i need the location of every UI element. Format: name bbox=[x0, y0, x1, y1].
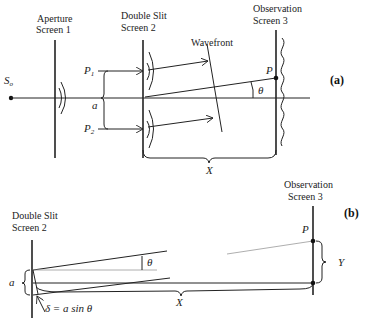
distance-x-label: X bbox=[205, 164, 214, 176]
slit-separation-brace bbox=[101, 71, 108, 129]
double-slit-diagram: Aperture Screen 1 Double Slit Screen 2 O… bbox=[0, 0, 365, 326]
height-y-brace bbox=[316, 241, 326, 283]
panel-label-b: (b) bbox=[344, 206, 359, 220]
wavefront-label: Wavefront bbox=[191, 37, 233, 48]
aperture-screen-label-line1: Aperture bbox=[37, 13, 73, 24]
interference-pattern bbox=[281, 38, 284, 146]
p1-label: P1 bbox=[83, 64, 94, 78]
aperture-screen-label-line2: Screen 1 bbox=[36, 24, 71, 35]
angle-arc bbox=[251, 82, 253, 98]
observation-screen-label-line1: Observation bbox=[253, 3, 302, 14]
path-difference-label: δ = a sin θ bbox=[45, 302, 93, 314]
point-p-label: P bbox=[265, 64, 273, 76]
height-y-label: Y bbox=[338, 256, 346, 268]
angle-label: θ bbox=[147, 256, 153, 268]
double-slit-screen-label-line1: Double Slit bbox=[121, 10, 167, 21]
distance-x-brace bbox=[143, 150, 276, 163]
double-slit-screen-label-line2: Screen 2 bbox=[121, 22, 156, 33]
angle-label: θ bbox=[258, 84, 264, 96]
figure-b: Double Slit Screen 2 Observation Screen … bbox=[9, 179, 359, 318]
p2-label: P2 bbox=[83, 122, 95, 136]
source-label: So bbox=[4, 74, 14, 88]
point-p-dot bbox=[274, 76, 279, 81]
ray bbox=[148, 61, 208, 70]
distance-x-brace bbox=[36, 284, 313, 296]
wave-arc bbox=[147, 121, 150, 138]
wave-arc bbox=[147, 63, 150, 80]
panel-label-a: (a) bbox=[330, 73, 344, 87]
observation-screen-label-line2: Screen 3 bbox=[253, 15, 288, 26]
point-p-dot bbox=[311, 239, 316, 244]
double-slit-screen-label-line1: Double Slit bbox=[12, 210, 58, 221]
observation-screen-label-line1: Observation bbox=[284, 179, 333, 190]
double-slit-screen-label-line2: Screen 2 bbox=[12, 222, 47, 233]
ray-to-p bbox=[145, 78, 276, 97]
ray-lower bbox=[33, 278, 170, 295]
slit-separation-brace bbox=[22, 270, 30, 295]
slit-separation-label: a bbox=[92, 99, 98, 111]
path-difference-line bbox=[33, 270, 38, 294]
path-difference-arrow bbox=[37, 296, 45, 312]
ray-to-p bbox=[227, 241, 313, 254]
figure-a: Aperture Screen 1 Double Slit Screen 2 O… bbox=[4, 3, 344, 176]
slit-separation-label: a bbox=[9, 276, 15, 288]
point-p-label: P bbox=[301, 223, 309, 235]
center-dot bbox=[311, 281, 316, 286]
ray bbox=[148, 118, 213, 127]
observation-screen-label-line2: Screen 3 bbox=[288, 191, 323, 202]
distance-x-label: X bbox=[175, 296, 184, 308]
